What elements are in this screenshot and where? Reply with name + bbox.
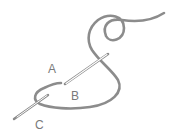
label-b: B xyxy=(71,89,79,103)
label-a: A xyxy=(48,62,56,76)
needle-lower xyxy=(14,95,48,119)
stitch-diagram: A B C xyxy=(0,0,177,133)
needle-upper xyxy=(65,54,108,84)
label-c: C xyxy=(35,118,44,132)
